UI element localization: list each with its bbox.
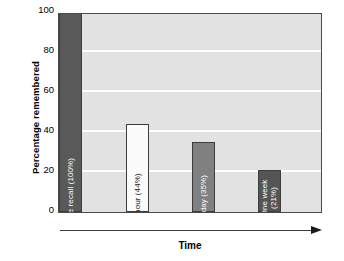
bar: One hour (44%) xyxy=(126,124,149,212)
y-tick-label: 40 xyxy=(22,125,54,135)
arrow-shaft xyxy=(60,230,312,231)
bar: One week(21%) xyxy=(258,170,281,212)
x-axis-arrow-icon xyxy=(60,226,322,235)
plot-area: Immediate recall (100%)One hour (44%)One… xyxy=(58,13,322,213)
bar-label-container: One week(21%) xyxy=(251,189,288,207)
arrow-head xyxy=(311,226,322,234)
x-axis-title: Time xyxy=(58,240,322,251)
y-tick-label: 80 xyxy=(22,45,54,55)
bar: One day (35%) xyxy=(192,142,215,212)
gridline xyxy=(59,90,321,92)
bar-label-container: One day (35%) xyxy=(176,198,231,207)
bar-chart-figure: Percentage remembered 020406080100 Immed… xyxy=(0,0,344,261)
y-tick-label: 0 xyxy=(22,205,54,215)
gridline xyxy=(59,50,321,52)
y-tick-label: 100 xyxy=(22,5,54,15)
bar-label-container: One hour (44%) xyxy=(108,198,166,207)
bar-label: One hour (44%) xyxy=(133,173,142,213)
bar-label-container: Immediate recall (100%) xyxy=(58,198,115,207)
y-axis-tick-labels: 020406080100 xyxy=(22,10,54,215)
gridline xyxy=(59,170,321,172)
bar: Immediate recall (100%) xyxy=(59,13,82,212)
bar-label: One day (35%) xyxy=(199,175,208,213)
y-tick-label: 20 xyxy=(22,165,54,175)
gridline xyxy=(59,130,321,132)
y-tick-label: 60 xyxy=(22,85,54,95)
bar-label: Immediate recall (100%) xyxy=(66,158,75,213)
bar-label: One week(21%) xyxy=(261,180,279,213)
